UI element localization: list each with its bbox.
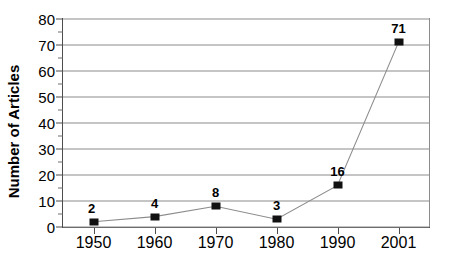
y-axis-minor-tick-mark: [58, 110, 63, 111]
x-axis-tick-label: 1970: [198, 234, 234, 252]
data-point-marker: [272, 216, 281, 223]
data-point-value-label: 2: [88, 201, 95, 216]
data-point-value-label: 71: [391, 21, 405, 36]
line-chart: Number of Articles 01020304050607080 248…: [0, 0, 452, 263]
y-axis-tick-label: 30: [38, 141, 55, 158]
data-point-value-label: 4: [151, 196, 158, 211]
y-axis-tick-label: 50: [38, 89, 55, 106]
y-axis-minor-tick-mark: [58, 32, 63, 33]
gridline: [63, 175, 429, 176]
gridline: [63, 71, 429, 72]
x-axis-tick-mark: [338, 228, 339, 234]
y-axis-title: Number of Articles: [0, 0, 26, 263]
y-axis-tick-label: 70: [38, 37, 55, 54]
data-point-value-label: 3: [273, 198, 280, 213]
y-axis-tick-label: 80: [38, 11, 55, 28]
y-axis-minor-tick-mark: [58, 136, 63, 137]
data-point-value-label: 16: [330, 164, 344, 179]
y-axis-tick-mark: [56, 19, 63, 20]
x-axis-tick-label: 1980: [259, 234, 295, 252]
y-axis-tick-mark: [56, 227, 63, 228]
x-axis-tick-label: 2001: [381, 234, 417, 252]
y-axis-tick-label: 60: [38, 63, 55, 80]
x-axis-tick-mark: [216, 228, 217, 234]
y-axis-tick-labels: 01020304050607080: [26, 0, 59, 263]
data-point-marker: [89, 218, 98, 225]
x-axis-tick-label: 1990: [320, 234, 356, 252]
y-axis-tick-mark: [56, 149, 63, 150]
plot-area: 24831671: [63, 19, 429, 227]
gridline: [63, 201, 429, 202]
y-axis-minor-tick-mark: [58, 214, 63, 215]
data-point-marker: [333, 182, 342, 189]
data-point-value-label: 8: [212, 185, 219, 200]
x-axis-tick-mark: [94, 228, 95, 234]
y-axis-tick-mark: [56, 123, 63, 124]
data-point-marker: [150, 213, 159, 220]
y-axis-minor-tick-mark: [58, 188, 63, 189]
y-axis-tick-mark: [56, 97, 63, 98]
y-axis-tick-label: 10: [38, 193, 55, 210]
gridline: [63, 19, 429, 20]
y-axis-tick-label: 40: [38, 115, 55, 132]
gridline: [63, 97, 429, 98]
y-axis-tick-mark: [56, 45, 63, 46]
y-axis-tick-mark: [56, 201, 63, 202]
gridline: [63, 45, 429, 46]
x-axis-tick-mark: [155, 228, 156, 234]
gridline: [63, 227, 429, 228]
y-axis-tick-mark: [56, 71, 63, 72]
x-axis-tick-label: 1960: [137, 234, 173, 252]
y-axis-minor-tick-mark: [58, 162, 63, 163]
plot-right-border: [429, 18, 430, 228]
y-axis-minor-tick-mark: [58, 58, 63, 59]
y-axis-tick-label: 20: [38, 167, 55, 184]
x-axis-tick-labels: 195019601970198019902001: [0, 234, 452, 260]
y-axis-tick-mark: [56, 175, 63, 176]
x-axis-tick-mark: [277, 228, 278, 234]
data-point-marker: [394, 39, 403, 46]
x-axis-tick-mark: [399, 228, 400, 234]
data-point-marker: [211, 203, 220, 210]
x-axis-tick-label: 1950: [76, 234, 112, 252]
y-axis-minor-tick-mark: [58, 84, 63, 85]
y-axis-tick-label: 0: [47, 219, 55, 236]
gridline: [63, 123, 429, 124]
gridline: [63, 149, 429, 150]
